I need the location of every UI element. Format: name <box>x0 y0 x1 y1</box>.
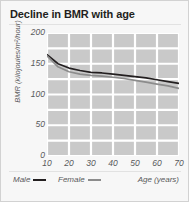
plot-area <box>47 33 179 156</box>
page-title: Decline in BMR with age <box>10 8 135 20</box>
y-tick-label: 150 <box>1 58 45 68</box>
x-axis-ticks: 10203040506070 <box>47 158 179 170</box>
x-tick-label: 40 <box>101 158 125 168</box>
x-tick-label: 30 <box>79 158 103 168</box>
legend-swatch-male <box>33 179 46 181</box>
y-tick-label: 100 <box>1 89 45 99</box>
title-divider <box>9 24 181 25</box>
legend-item-male: Male <box>13 175 46 184</box>
x-tick-label: 70 <box>167 158 189 168</box>
x-tick-label: 60 <box>145 158 169 168</box>
gridlines <box>47 33 179 156</box>
plot-svg <box>47 33 179 156</box>
legend-label-female: Female <box>58 175 85 184</box>
x-axis-label: Age (years) <box>138 175 179 184</box>
x-tick-label: 20 <box>57 158 81 168</box>
y-axis-label: BMR (kilojoules/m²/hour) <box>13 10 22 114</box>
y-tick-label: 200 <box>1 27 45 37</box>
x-tick-label: 50 <box>123 158 147 168</box>
legend-item-female: Female <box>58 175 101 184</box>
x-tick-label: 10 <box>35 158 59 168</box>
legend-divider <box>9 171 181 172</box>
legend-swatch-female <box>88 179 101 181</box>
y-axis-ticks: 050100150200 <box>1 33 45 156</box>
y-tick-label: 50 <box>1 119 45 129</box>
chart-legend: Male Female Age (years) <box>11 175 181 189</box>
chart-card: Decline in BMR with age 050100150200 BMR… <box>0 0 189 202</box>
legend-label-male: Male <box>13 175 30 184</box>
